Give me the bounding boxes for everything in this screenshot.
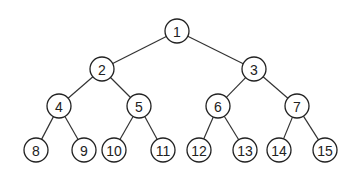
- edge-4-8: [42, 117, 54, 140]
- node-label: 9: [80, 143, 88, 159]
- edge-2-5: [110, 77, 130, 97]
- node-label: 5: [135, 99, 143, 115]
- node-label: 13: [237, 143, 253, 159]
- node-label: 4: [55, 99, 63, 115]
- edge-5-11: [145, 117, 158, 140]
- edge-4-9: [65, 116, 78, 139]
- tree-node-4: 4: [47, 94, 71, 118]
- tree-node-5: 5: [127, 94, 151, 118]
- edge-6-12: [204, 117, 213, 139]
- node-label: 8: [32, 143, 40, 159]
- nodes-group: 123456789101112131415: [24, 19, 337, 162]
- tree-node-2: 2: [90, 57, 114, 81]
- tree-diagram: 123456789101112131415: [0, 0, 354, 172]
- tree-node-8: 8: [24, 138, 48, 162]
- tree-node-12: 12: [187, 138, 211, 162]
- node-label: 6: [214, 99, 222, 115]
- edge-3-6: [226, 78, 245, 98]
- tree-svg: 123456789101112131415: [0, 0, 354, 172]
- node-label: 10: [106, 143, 122, 159]
- edge-3-7: [263, 77, 288, 98]
- node-label: 7: [293, 99, 301, 115]
- edge-1-2: [113, 36, 167, 63]
- edge-2-4: [68, 77, 93, 98]
- tree-node-10: 10: [102, 138, 126, 162]
- tree-node-1: 1: [165, 19, 189, 43]
- edges-group: [42, 36, 319, 140]
- tree-node-14: 14: [267, 138, 291, 162]
- edge-6-13: [224, 116, 238, 140]
- tree-node-9: 9: [72, 138, 96, 162]
- tree-node-13: 13: [233, 138, 257, 162]
- node-label: 12: [191, 143, 207, 159]
- node-label: 3: [250, 62, 258, 78]
- node-label: 2: [98, 62, 106, 78]
- node-label: 14: [271, 143, 287, 159]
- tree-node-7: 7: [285, 94, 309, 118]
- node-label: 15: [317, 143, 333, 159]
- tree-node-3: 3: [242, 57, 266, 81]
- tree-node-6: 6: [206, 94, 230, 118]
- node-label: 1: [173, 24, 181, 40]
- edge-7-14: [284, 117, 293, 139]
- edge-7-15: [303, 116, 318, 140]
- tree-node-11: 11: [151, 138, 175, 162]
- edge-5-10: [120, 116, 133, 139]
- node-label: 11: [156, 143, 171, 159]
- edge-1-3: [188, 36, 243, 63]
- tree-node-15: 15: [313, 138, 337, 162]
